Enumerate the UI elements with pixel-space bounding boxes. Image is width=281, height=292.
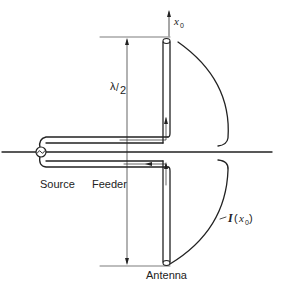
antenna-upper-arm — [163, 39, 170, 144]
lower-arm-end-cap — [163, 261, 170, 266]
dimension-arrow-down-icon — [125, 258, 129, 265]
current-curve-lower — [170, 160, 228, 264]
current-var: x — [238, 212, 244, 224]
antenna-lower-arm — [163, 161, 170, 266]
current-label-leader — [220, 217, 226, 219]
dimension-arrow-up-icon — [125, 38, 129, 45]
dipole-diagram: Source Feeder Antenna λ / 2 x 0 I ( x 0 … — [0, 0, 281, 292]
source-label: Source — [40, 178, 75, 190]
upper-arm-outer-wall — [168, 42, 170, 137]
current-curve-upper — [178, 42, 228, 146]
current-I: I — [227, 211, 234, 225]
current-open-paren: ( — [234, 212, 238, 224]
fraction-denominator: 2 — [120, 84, 126, 96]
lower-arm-outer-wall — [168, 167, 170, 262]
x0-axis-label: x 0 — [173, 15, 184, 29]
feeder-label: Feeder — [92, 178, 127, 190]
x0-axis-arrow-icon — [167, 10, 171, 17]
x0-sub: 0 — [180, 22, 184, 29]
current-arrow-left-icon — [145, 162, 152, 166]
antenna-label: Antenna — [146, 269, 188, 281]
fraction-slash: / — [116, 82, 119, 93]
upper-arm-end-cap — [163, 39, 170, 44]
current-label: I ( x 0 ) — [227, 211, 253, 226]
half-wavelength-label: λ / 2 — [110, 80, 126, 96]
current-arrow-up-lower-icon — [164, 162, 168, 169]
source-symbol — [36, 147, 46, 157]
current-close-paren: ) — [249, 212, 253, 224]
x0-var: x — [173, 15, 179, 27]
current-arrow-up-icon — [164, 117, 168, 124]
